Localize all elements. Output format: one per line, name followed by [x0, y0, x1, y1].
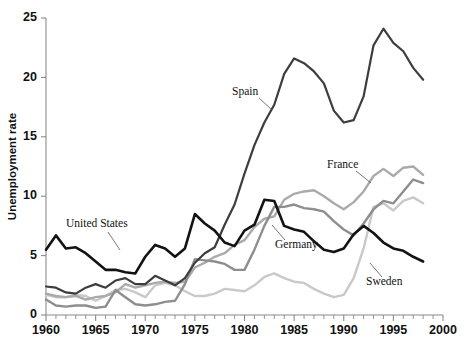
y-tick-label: 10 [23, 188, 37, 202]
y-tick-label: 5 [30, 248, 37, 262]
y-tick-label: 20 [23, 70, 37, 84]
x-tick-label: 1990 [330, 323, 358, 337]
x-tick-label: 1965 [82, 323, 110, 337]
chart-annotations-group: United StatesSpainFranceGermanySweden [66, 85, 403, 287]
series-label-spain: Spain [232, 85, 258, 98]
x-tick-label: 1975 [181, 323, 209, 337]
y-tick-label: 25 [23, 10, 37, 24]
x-tick-label: 2000 [429, 323, 457, 337]
y-tick-label: 15 [23, 129, 37, 143]
series-label-leader-line [259, 98, 272, 110]
y-axis-title: Unemployment rate [6, 113, 18, 220]
x-tick-label: 1960 [32, 323, 60, 337]
chart-series-group [46, 29, 423, 308]
series-label-germany: Germany [275, 238, 318, 251]
series-label-united-states: United States [66, 217, 128, 229]
series-label-leader-line [356, 171, 371, 183]
series-label-france: France [327, 158, 358, 170]
unemployment-rate-chart: 0510152025196019651970197519801985199019… [0, 0, 470, 338]
x-tick-label: 1980 [231, 323, 259, 337]
x-tick-label: 1985 [280, 323, 308, 337]
y-tick-label: 0 [30, 307, 37, 321]
series-label-sweden: Sweden [366, 275, 403, 287]
chart-plot-area: 0510152025196019651970197519801985199019… [0, 0, 470, 338]
x-tick-label: 1970 [131, 323, 159, 337]
x-tick-label: 1995 [379, 323, 407, 337]
series-line-spain [46, 29, 423, 294]
series-label-leader-line [108, 232, 120, 250]
